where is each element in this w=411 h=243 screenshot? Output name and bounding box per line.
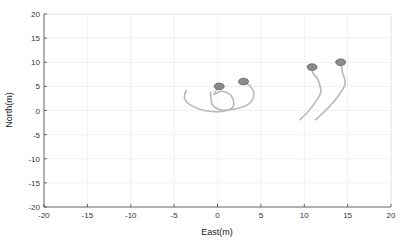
y-tick-label: 5: [36, 82, 41, 91]
x-tick-label: 5: [259, 211, 264, 220]
y-tick-label: -15: [28, 179, 40, 188]
trajectory-3-end-marker: [307, 64, 317, 71]
x-axis-title: East(m): [201, 227, 233, 237]
y-tick-label: -20: [28, 203, 40, 212]
y-tick-label: -5: [33, 131, 41, 140]
x-tick-label: -15: [82, 211, 94, 220]
x-tick-label: 0: [215, 211, 220, 220]
x-tick-label: 10: [300, 211, 309, 220]
y-tick-label: -10: [28, 155, 40, 164]
trajectory-2-end-marker: [239, 78, 249, 85]
x-tick-label: 20: [387, 211, 396, 220]
y-axis-title: North(m): [4, 92, 14, 128]
x-tick-label: -5: [171, 211, 179, 220]
x-tick-label: -20: [38, 211, 50, 220]
y-tick-label: 15: [31, 34, 40, 43]
trajectory-chart: -20-15-10-50510152020151050-5-10-15-20 E…: [0, 0, 411, 243]
y-tick-label: 10: [31, 58, 40, 67]
y-tick-label: 20: [31, 10, 40, 19]
trajectory-4-end-marker: [336, 59, 346, 66]
chart-background: [0, 0, 411, 243]
x-tick-label: -10: [125, 211, 137, 220]
x-tick-label: 15: [343, 211, 352, 220]
trajectory-1-end-marker: [214, 83, 224, 90]
y-tick-label: 0: [36, 107, 41, 116]
